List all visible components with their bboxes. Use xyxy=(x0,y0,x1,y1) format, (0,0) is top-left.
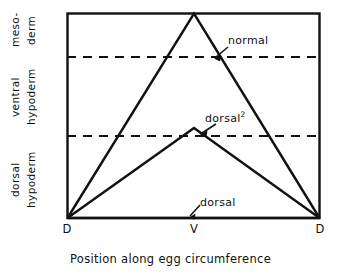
curve-dorsal2 xyxy=(68,128,320,218)
plot-area xyxy=(0,0,341,278)
x-axis-tick-dorsal-right: D xyxy=(309,222,331,236)
annotation-dorsal: dorsal xyxy=(200,196,236,209)
annotation-normal: normal xyxy=(228,34,268,47)
leader-arrow-dorsal2 xyxy=(200,124,216,137)
curve-normal xyxy=(68,14,320,219)
x-axis-tick-dorsal-left: D xyxy=(56,222,78,236)
figure-container: meso- derm ventral hypoderm dorsal hypod… xyxy=(0,0,341,278)
x-axis-title: Position along egg circumference xyxy=(0,252,341,266)
annotation-dorsal2-superscript: 2 xyxy=(241,110,246,119)
annotation-dorsal2-base: dorsal xyxy=(205,112,241,125)
annotation-dorsal2: dorsal2 xyxy=(205,112,246,125)
x-axis-tick-ventral: V xyxy=(183,222,205,236)
plot-frame xyxy=(68,14,320,219)
